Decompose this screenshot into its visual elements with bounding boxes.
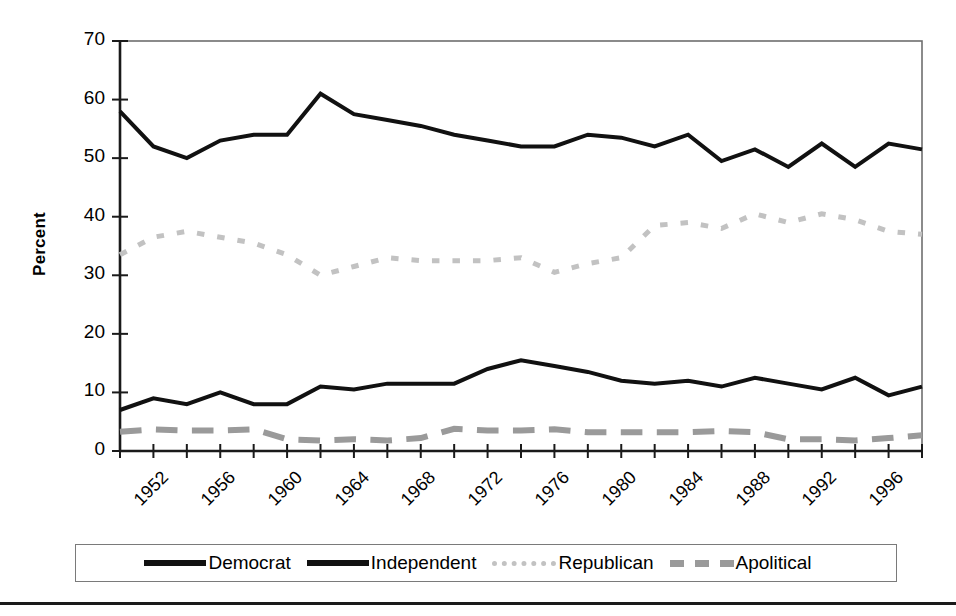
- legend-item[interactable]: Apolitical: [670, 552, 828, 574]
- figure-container: Percent DemocratIndependentRepublicanApo…: [0, 0, 956, 616]
- legend-item[interactable]: Democrat: [144, 552, 306, 574]
- dotted-line-swatch-icon: [492, 561, 556, 566]
- series-line-apolitical: [120, 429, 922, 441]
- dashed-line-swatch-icon: [670, 560, 734, 567]
- series-line-republican: [120, 214, 922, 276]
- y-axis-tick-label: 40: [25, 204, 105, 226]
- y-axis-tick-label: 50: [25, 145, 105, 167]
- y-axis-tick-label: 30: [25, 262, 105, 284]
- plot-frame: [120, 41, 922, 451]
- legend-label: Republican: [558, 552, 669, 574]
- solid-line-swatch-icon: [144, 560, 206, 566]
- legend-item[interactable]: Republican: [492, 552, 669, 574]
- y-axis-tick-label: 20: [25, 321, 105, 343]
- legend-label: Independent: [371, 552, 493, 574]
- footer-rule: [0, 602, 956, 605]
- chart-legend: DemocratIndependentRepublicanApolitical: [75, 544, 897, 582]
- y-axis-tick-label: 60: [25, 87, 105, 109]
- series-line-independent: [120, 360, 922, 410]
- solid-line-swatch-icon: [307, 560, 369, 566]
- line-chart-plot: [0, 0, 956, 616]
- series-line-democrat: [120, 94, 922, 167]
- legend-item[interactable]: Independent: [307, 552, 493, 574]
- y-axis-tick-label: 10: [25, 379, 105, 401]
- y-axis-tick-label: 0: [25, 438, 105, 460]
- legend-label: Democrat: [208, 552, 306, 574]
- legend-label: Apolitical: [736, 552, 828, 574]
- y-axis-tick-label: 70: [25, 28, 105, 50]
